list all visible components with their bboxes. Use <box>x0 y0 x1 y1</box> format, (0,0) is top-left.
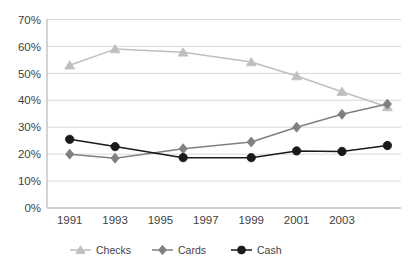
line-chart: 0%10%20%30%40%50%60%70% 1991199319951997… <box>0 0 410 266</box>
legend-label: Checks <box>96 244 131 256</box>
y-axis-tick-label: 10% <box>18 175 41 187</box>
x-axis-tick-label: 1991 <box>57 214 83 226</box>
data-point-marker <box>292 147 300 155</box>
data-point-marker <box>238 246 246 254</box>
x-axis-tick-label: 1993 <box>102 214 128 226</box>
x-axis-tick-label: 1997 <box>193 214 219 226</box>
data-point-marker <box>383 141 391 149</box>
x-axis-tick-label: 1995 <box>148 214 174 226</box>
y-axis-tick-label: 40% <box>18 94 41 106</box>
data-point-marker <box>179 153 187 161</box>
legend-label: Cash <box>257 244 282 256</box>
data-point-marker <box>111 142 119 150</box>
y-axis-tick-label: 30% <box>18 121 41 133</box>
y-axis-tick-label: 60% <box>18 41 41 53</box>
x-axis-tick-label: 2001 <box>284 214 310 226</box>
data-point-marker <box>338 147 346 155</box>
y-axis-tick-label: 70% <box>18 14 41 26</box>
y-axis-tick-label: 50% <box>18 68 41 80</box>
y-axis-tick-label: 0% <box>24 202 41 214</box>
data-point-marker <box>65 135 73 143</box>
data-point-marker <box>247 153 255 161</box>
x-axis-tick-label: 2003 <box>329 214 355 226</box>
legend-label: Cards <box>178 244 206 256</box>
x-axis-tick-label: 1999 <box>238 214 264 226</box>
y-axis-tick-label: 20% <box>18 148 41 160</box>
chart-background <box>0 0 410 266</box>
chart-container: 0%10%20%30%40%50%60%70% 1991199319951997… <box>0 0 410 266</box>
